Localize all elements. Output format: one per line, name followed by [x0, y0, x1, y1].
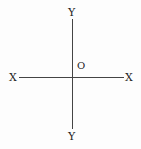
axes-lines	[0, 0, 141, 149]
origin-label: O	[77, 61, 85, 71]
x-axis-right-label: X	[125, 72, 133, 83]
coordinate-axes-diagram: Y Y X X O	[0, 0, 141, 149]
y-axis-bottom-label: Y	[68, 131, 75, 142]
x-axis-left-label: X	[9, 72, 17, 83]
y-axis-top-label: Y	[68, 7, 75, 18]
